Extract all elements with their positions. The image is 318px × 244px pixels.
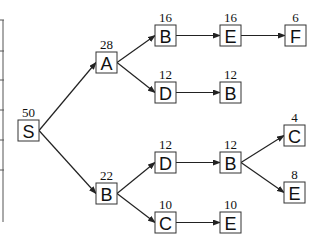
edges [39, 36, 285, 223]
node-count-label: 10 [224, 197, 237, 212]
node-item-label: B [159, 27, 171, 47]
node-count-label: 16 [159, 10, 173, 25]
node-item-label: C [159, 214, 172, 234]
node-count-label: 16 [224, 10, 238, 25]
node-item-label: D [159, 154, 172, 174]
edge-arrow-b-to-c [117, 194, 155, 223]
node-item-label: B [224, 154, 236, 174]
tree-node-d: 12D [155, 137, 176, 174]
tree-node-b: 12B [220, 67, 241, 104]
node-count-label: 12 [159, 67, 172, 82]
node-count-label: 22 [100, 168, 113, 183]
node-count-label: 10 [159, 197, 172, 212]
tree-node-e: 10E [220, 197, 241, 234]
node-count-label: 12 [224, 137, 237, 152]
node-item-label: E [224, 214, 236, 234]
tree-node-b: 16B [155, 10, 176, 47]
node-count-label: 8 [291, 167, 298, 182]
node-item-label: C [288, 127, 301, 147]
nodes: 50S28A22B16B12D16E6F12B12D12B4C8E10C10E [18, 10, 306, 234]
node-item-label: A [100, 54, 112, 74]
node-item-label: B [224, 84, 236, 104]
tree-node-e: 8E [284, 167, 305, 204]
edge-arrow-b-to-d [117, 163, 155, 194]
node-item-label: E [224, 27, 236, 47]
tree-node-a: 28A [96, 37, 117, 74]
node-count-label: 12 [224, 67, 237, 82]
edge-arrow-s-to-a [39, 63, 96, 131]
tree-node-e: 16E [220, 10, 241, 47]
node-item-label: B [100, 185, 112, 205]
node-count-label: 28 [100, 37, 113, 52]
tree-node-s: 50S [18, 105, 39, 142]
node-item-label: E [288, 184, 300, 204]
tree-node-d: 12D [155, 67, 176, 104]
edge-arrow-b-to-e [241, 163, 284, 193]
node-item-label: F [290, 27, 301, 47]
tree-node-b: 22B [96, 168, 117, 205]
tree-node-c: 10C [155, 197, 176, 234]
node-item-label: D [159, 84, 172, 104]
node-count-label: 4 [291, 110, 298, 125]
tree-node-c: 4C [284, 110, 305, 147]
frequent-pattern-tree-diagram: 50S28A22B16B12D16E6F12B12D12B4C8E10C10E [0, 0, 318, 244]
edge-arrow-s-to-b [39, 131, 96, 194]
edge-arrow-a-to-d [117, 63, 155, 93]
node-count-label: 12 [159, 137, 172, 152]
edge-arrow-a-to-b [117, 36, 155, 63]
node-count-label: 50 [22, 105, 35, 120]
tree-node-f: 6F [285, 10, 306, 47]
node-count-label: 6 [292, 10, 299, 25]
edge-arrow-b-to-c [241, 136, 284, 163]
tree-node-b: 12B [220, 137, 241, 174]
cropped-table-edge [0, 20, 4, 222]
node-item-label: S [22, 122, 34, 142]
